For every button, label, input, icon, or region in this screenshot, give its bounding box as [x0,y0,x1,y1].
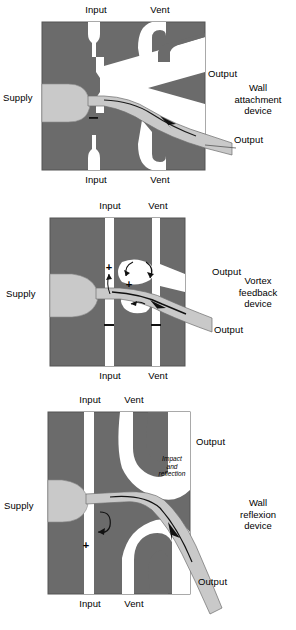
device-name-wall-attachment: Wall attachment device [235,82,282,117]
label-bottom-vent: Vent [124,598,143,609]
panel-vortex-feedback: + + Input Vent Input Vent Supply Output … [0,196,296,388]
label-bottom-input: Input [79,598,101,609]
device-name-vortex-feedback: Vortex feedback device [239,275,278,310]
device-name-line-2: attachment [235,93,282,105]
figure-root: Input Vent Input Vent Supply Output Outp… [0,0,296,630]
minus-sign-icon [89,117,98,119]
impact-note-line-3: reflection [159,470,186,478]
label-bottom-input: Input [99,370,121,381]
label-bottom-vent: Vent [148,370,167,381]
label-output-upper: Output [212,266,241,277]
device-name-line-3: device [239,298,278,310]
label-top-input: Input [79,394,101,405]
device-name-line-3: device [235,105,282,117]
impact-reflection-note: Impact and reflection [159,455,186,478]
panel-wall-attachment: Input Vent Input Vent Supply Output Outp… [0,0,296,200]
minus-sign-input-icon [104,324,114,326]
label-output-upper: Output [196,436,225,447]
label-output-lower: Output [234,134,263,145]
device-name-line-1: Wall [235,82,282,94]
label-bottom-vent: Vent [150,174,169,185]
impact-note-line-2: and [159,462,186,470]
label-supply: Supply [4,500,34,511]
label-output-lower: Output [198,576,227,587]
device-name-line-3: device [240,520,276,532]
label-top-vent: Vent [148,200,167,211]
label-bottom-input: Input [85,174,107,185]
device-name-line-1: Wall [240,497,276,509]
device-name-line-2: reflexion [240,508,276,520]
label-top-input: Input [99,200,121,211]
plus-sign-vortex: + [126,279,132,290]
impact-note-line-1: Impact [159,455,186,463]
label-supply: Supply [6,288,36,299]
minus-sign-vent-icon [151,324,161,326]
label-output-lower: Output [214,324,243,335]
device-name-line-2: feedback [239,286,278,298]
label-output-upper: Output [208,68,237,79]
label-supply: Supply [3,92,33,103]
label-top-vent: Vent [150,4,169,15]
label-top-vent: Vent [124,394,143,405]
vent-channel [152,218,160,366]
panel-wall-reflexion: + Impact and reflection Input Vent Input… [0,382,296,630]
plus-sign-input: + [106,262,112,273]
device-name-line-1: Vortex [239,275,278,287]
plus-sign-input: + [83,540,89,551]
device-name-wall-reflexion: Wall reflexion device [240,497,276,532]
label-top-input: Input [85,4,107,15]
supply-plenum [42,84,90,122]
